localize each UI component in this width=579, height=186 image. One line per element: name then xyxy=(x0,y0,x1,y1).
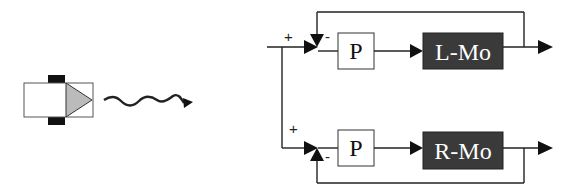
wavy-arrow-icon xyxy=(104,95,193,108)
bottom-plus-sign: + xyxy=(289,120,298,137)
robot-icon xyxy=(24,75,93,125)
block-diagram: + - P L-Mo + - P R-Mo xyxy=(0,0,579,186)
bottom-p-label: P xyxy=(349,135,362,161)
top-p-label: P xyxy=(349,38,362,64)
top-plus-sign: + xyxy=(284,28,293,45)
right-output-arrow xyxy=(538,141,553,155)
bottom-minus-sign: - xyxy=(325,148,330,165)
left-output-arrow xyxy=(538,40,553,54)
bottom-loop: + - P R-Mo xyxy=(289,120,553,183)
top-minus-sign: - xyxy=(325,28,330,45)
right-motor-label: R-Mo xyxy=(434,138,491,164)
left-motor-label: L-Mo xyxy=(435,39,491,65)
top-loop: + - P L-Mo xyxy=(284,12,553,69)
